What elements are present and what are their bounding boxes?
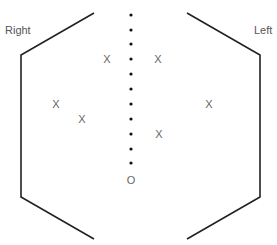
right-label: Right bbox=[5, 24, 31, 36]
left-boundary-line bbox=[187, 13, 260, 239]
center-dot bbox=[129, 132, 132, 135]
center-dotted-line bbox=[129, 13, 132, 164]
x-mark: X bbox=[52, 98, 59, 110]
right-boundary-line bbox=[21, 13, 94, 239]
center-dot bbox=[129, 87, 132, 90]
o-mark: O bbox=[127, 174, 136, 186]
center-dot bbox=[129, 102, 132, 105]
x-mark: X bbox=[154, 53, 161, 65]
x-mark: X bbox=[103, 53, 110, 65]
center-dot bbox=[129, 13, 132, 16]
center-dot bbox=[129, 72, 132, 75]
center-dot bbox=[129, 161, 132, 164]
center-dot bbox=[129, 28, 132, 31]
field-diagram bbox=[0, 0, 277, 245]
center-dot bbox=[129, 57, 132, 60]
x-mark: X bbox=[155, 128, 162, 140]
center-dot bbox=[129, 147, 132, 150]
left-label: Left bbox=[254, 24, 272, 36]
center-dot bbox=[129, 117, 132, 120]
center-dot bbox=[129, 42, 132, 45]
x-mark: X bbox=[78, 113, 85, 125]
x-mark: X bbox=[205, 98, 212, 110]
